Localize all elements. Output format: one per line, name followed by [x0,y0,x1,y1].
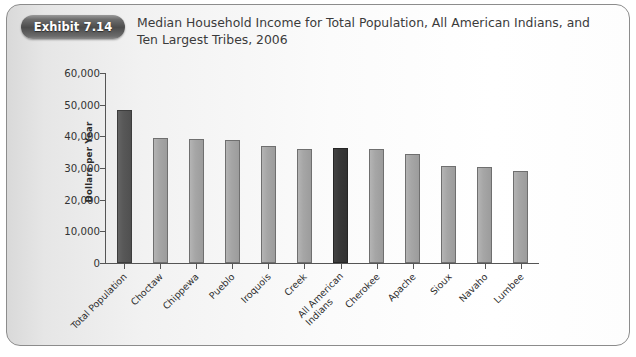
x-tick-mark [196,264,197,269]
x-tick-label: Apache [385,271,418,304]
x-tick-mark [268,264,269,269]
x-tick-label: Pueblo [207,271,237,301]
x-tick-mark [377,264,378,269]
y-tick-label: 40,000 [64,131,100,142]
exhibit-panel: Exhibit 7.14 Median Household Income for… [6,4,630,346]
y-tick-label: 60,000 [64,68,100,79]
bar [369,149,384,263]
exhibit-badge: Exhibit 7.14 [21,15,125,39]
bar [225,140,240,263]
chart-title: Median Household Income for Total Popula… [137,15,607,48]
x-tick-label: Iroquois [239,271,273,305]
y-tick-mark [100,105,105,106]
x-axis-line [105,263,539,264]
y-tick-mark [100,263,105,264]
y-tick-mark [100,200,105,201]
bar [189,139,204,263]
x-tick-mark [232,264,233,269]
x-tick-mark [413,264,414,269]
y-tick-mark [100,231,105,232]
y-tick-label: 20,000 [64,194,100,205]
y-tick-mark [100,136,105,137]
x-tick-label: Choctaw [129,271,165,307]
x-tick-label: Total Population [69,271,129,331]
x-tick-mark [124,264,125,269]
bar [513,171,528,263]
bar-chart: Dollars per Year 60,00050,00040,00030,00… [105,65,585,335]
x-tick-label: Chippewa [161,271,201,311]
x-tick-label: Cherokee [342,271,381,310]
x-tick-mark [341,264,342,269]
plot-bars [106,73,539,263]
y-tick-label: 50,000 [64,99,100,110]
y-tick-mark [100,168,105,169]
bar [153,138,168,263]
x-tick-mark [449,264,450,269]
x-tick-mark [160,264,161,269]
bar [297,149,312,263]
bar [477,167,492,263]
x-tick-mark [485,264,486,269]
bar [405,154,420,263]
bar [117,110,132,263]
bar [333,148,348,263]
x-tick-label: Sioux [428,271,454,297]
x-tick-mark [304,264,305,269]
x-tick-label: Creek [282,271,309,298]
bar [261,146,276,263]
x-tick-label: Lumbee [491,271,525,305]
exhibit-badge-label: Exhibit 7.14 [34,20,113,34]
y-tick-label: 30,000 [64,163,100,174]
y-tick-mark [100,73,105,74]
y-tick-label: 10,000 [64,226,100,237]
x-tick-mark [521,264,522,269]
x-tick-label: Navaho [457,271,490,304]
bar [441,166,456,263]
